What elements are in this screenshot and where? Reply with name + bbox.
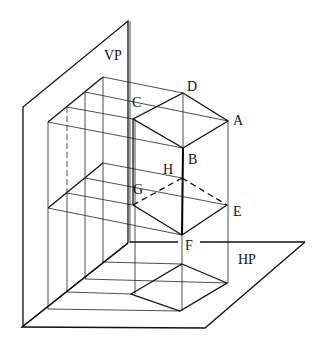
hp-projection	[131, 264, 227, 311]
label-f: F	[185, 238, 193, 253]
label-e: E	[233, 204, 242, 219]
label-d: D	[187, 79, 197, 94]
label-a: A	[233, 113, 244, 128]
label-b: B	[188, 152, 197, 167]
label-vp: VP	[104, 48, 122, 63]
label-hp: HP	[238, 252, 256, 267]
solid-prism	[133, 93, 228, 311]
label-c: C	[132, 95, 141, 110]
label-g: G	[133, 182, 143, 197]
label-h: H	[163, 162, 173, 177]
hp-trace	[22, 243, 128, 327]
vertical-plane	[23, 21, 130, 327]
projection-diagram: VP HP D A C B H G E F	[0, 0, 321, 348]
horizontal-plane	[22, 242, 305, 328]
